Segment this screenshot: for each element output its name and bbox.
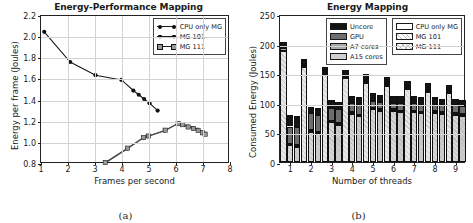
bar-segment: [294, 127, 300, 145]
y-tick: [38, 122, 41, 123]
data-point-marker: [191, 126, 195, 130]
bar-segment: [439, 112, 445, 114]
x-tick-label: 2: [65, 165, 70, 174]
gridline-horizontal: [280, 134, 464, 135]
x-tick-label: 5: [146, 165, 151, 174]
bar-segment: [349, 96, 355, 103]
bar-segment: [335, 125, 341, 162]
bar-segment: [404, 89, 410, 162]
legend-item-mg-111: MG 111: [157, 42, 222, 51]
bar-segment: [349, 112, 355, 114]
y-tick: [38, 143, 41, 144]
bar-segment: [356, 105, 362, 115]
bar-segment: [280, 46, 286, 48]
uncore-swatch-icon: [330, 23, 347, 30]
panel-b-title: Energy Mapping: [266, 2, 469, 12]
legend-label: MG 111: [180, 43, 205, 51]
bar-segment: [390, 96, 396, 103]
bar-segment: [322, 71, 328, 73]
panel-b-caption: (b): [244, 210, 473, 221]
bar-segment: [404, 81, 410, 86]
bar-segment: [411, 110, 417, 112]
bar-segment: [377, 109, 383, 111]
diagonal-hatch-swatch-icon: [396, 33, 413, 40]
bar-segment: [328, 108, 334, 121]
bar-group: [301, 14, 322, 162]
bar-segment: [459, 116, 465, 162]
bar-segment: [452, 113, 458, 115]
bar-segment: [425, 90, 431, 92]
bar-segment: [452, 115, 458, 162]
y-tick-label: 0: [270, 160, 275, 169]
gpu-swatch-icon: [330, 33, 347, 40]
bar-segment: [411, 112, 417, 162]
stacked-bar[interactable]: [308, 14, 314, 162]
stacked-bar[interactable]: [315, 14, 321, 162]
gridline-horizontal: [41, 79, 228, 80]
data-point-marker: [142, 135, 146, 139]
bar-segment: [342, 76, 348, 78]
x-tick-label: 8: [432, 165, 437, 174]
data-point-marker: [131, 88, 135, 92]
bar-segment: [377, 111, 383, 162]
y-tick: [277, 134, 280, 135]
bar-segment: [390, 103, 396, 110]
data-point-marker: [103, 160, 107, 164]
stacked-bar[interactable]: [280, 14, 286, 162]
bar-segment: [370, 109, 376, 162]
bar-segment: [308, 132, 314, 162]
legend-item-cpu-only-mg: CPU only MG: [157, 22, 222, 31]
gridline-horizontal: [280, 46, 464, 47]
bar-segment: [432, 111, 438, 113]
panel-a-energy-performance: Energy-Performance Mapping CPU only MG: [0, 0, 237, 223]
bar-segment: [397, 96, 403, 103]
panel-a-caption: (a): [14, 210, 237, 221]
data-point-marker: [42, 30, 46, 34]
y-tick-label: 1.4: [23, 96, 36, 105]
bar-segment: [377, 95, 383, 103]
bar-segment: [349, 114, 355, 162]
y-tick: [277, 105, 280, 106]
stacked-bar[interactable]: [301, 14, 307, 162]
y-tick-label: 1.6: [23, 75, 36, 84]
stacked-bar[interactable]: [287, 14, 293, 162]
y-tick: [38, 16, 41, 17]
y-tick: [38, 101, 41, 102]
bar-segment: [322, 75, 328, 162]
bar-segment: [294, 116, 300, 127]
bar-segment: [287, 145, 293, 162]
x-tick-label: 2: [308, 165, 313, 174]
x-tick-label: 8: [227, 165, 232, 174]
circle-marker-icon: [157, 23, 177, 31]
x-tick-label: 6: [391, 165, 396, 174]
legend-label: A15 cores: [350, 53, 383, 61]
data-point-marker: [196, 128, 200, 132]
y-tick-label: 100: [260, 100, 275, 109]
legend-item-variant-cpu-only-mg: CPU only MG: [396, 22, 458, 31]
bar-segment: [363, 83, 369, 162]
gridline-horizontal: [280, 75, 464, 76]
bar-segment: [328, 122, 334, 162]
gridline-horizontal: [41, 143, 228, 144]
bar-segment: [411, 96, 417, 103]
gridline-horizontal: [280, 105, 464, 106]
y-tick: [277, 46, 280, 47]
gridline-vertical: [176, 16, 177, 162]
bar-segment: [294, 145, 300, 147]
bar-segment: [390, 111, 396, 162]
gridline-horizontal: [41, 58, 228, 59]
legend-label: MG 101: [416, 33, 441, 41]
stacked-bar[interactable]: [294, 14, 300, 162]
series-line: [44, 32, 157, 111]
x-tick-label: 3: [329, 165, 334, 174]
gridline-horizontal: [41, 101, 228, 102]
bar-segment: [446, 93, 452, 162]
legend-label: GPU: [350, 33, 364, 41]
bar-segment: [328, 120, 334, 122]
bar-segment: [370, 93, 376, 101]
legend-label: CPU only MG: [416, 23, 458, 31]
y-tick: [38, 79, 41, 80]
y-tick-label: 250: [260, 12, 275, 21]
gridline-vertical: [95, 16, 96, 162]
bar-segment: [384, 86, 390, 162]
